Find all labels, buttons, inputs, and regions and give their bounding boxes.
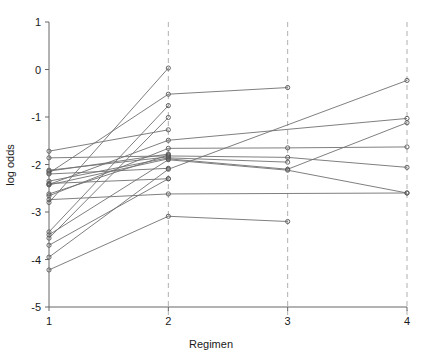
log-odds-line-chart: 10-1-2-3-4-51234 Regimen log odds [0, 0, 423, 355]
x-tick-label: 4 [404, 315, 410, 327]
y-tick-label: -1 [31, 111, 41, 123]
x-axis-title: Regimen [189, 338, 233, 350]
x-tick-label: 1 [46, 315, 52, 327]
y-tick-label: -5 [31, 301, 41, 313]
y-tick-label: 1 [35, 16, 41, 28]
x-tick-label: 2 [165, 315, 171, 327]
y-tick-label: -4 [31, 254, 41, 266]
y-tick-label: -2 [31, 159, 41, 171]
y-tick-label: 0 [35, 64, 41, 76]
chart-container: 10-1-2-3-4-51234 Regimen log odds [0, 0, 423, 355]
plot-background [0, 0, 423, 355]
y-axis-title: log odds [4, 144, 16, 186]
x-tick-label: 3 [285, 315, 291, 327]
y-tick-label: -3 [31, 206, 41, 218]
